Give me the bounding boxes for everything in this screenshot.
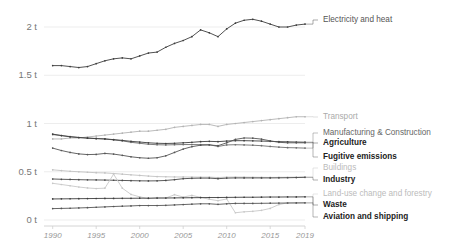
data-point (243, 196, 245, 198)
data-point (287, 26, 289, 28)
data-point (78, 171, 80, 173)
data-point (174, 176, 176, 178)
data-point (208, 141, 210, 143)
data-point (208, 124, 210, 126)
data-point (113, 153, 115, 155)
data-point (182, 204, 184, 206)
data-point (243, 144, 245, 146)
legend-label-electricity-and-heat[interactable]: Electricity and heat (323, 15, 393, 24)
legend-label-industry[interactable]: Industry (323, 175, 356, 184)
data-point (69, 136, 71, 138)
data-point (95, 63, 97, 65)
legend-label-agriculture[interactable]: Agriculture (323, 138, 367, 147)
series-line (53, 203, 305, 209)
data-point (287, 117, 289, 119)
data-point (148, 197, 150, 199)
data-point (113, 198, 115, 200)
data-point (156, 144, 158, 146)
data-point (52, 147, 54, 149)
data-point (130, 58, 132, 60)
data-point (243, 177, 245, 179)
data-point (252, 121, 254, 123)
data-point (217, 36, 219, 38)
data-point (191, 177, 193, 179)
data-point (121, 180, 123, 182)
legend-label-manufacturing-construction[interactable]: Manufacturing & Construction (323, 128, 431, 137)
legend-label-waste[interactable]: Waste (323, 200, 347, 209)
data-point (69, 179, 71, 181)
data-point (278, 202, 280, 204)
data-point (156, 129, 158, 131)
data-point (278, 196, 280, 198)
data-point (269, 119, 271, 121)
data-point (269, 177, 271, 179)
data-point (269, 23, 271, 25)
data-point (208, 203, 210, 205)
data-point (174, 179, 176, 181)
data-point (252, 210, 254, 212)
data-point (182, 176, 184, 178)
data-point (269, 140, 271, 142)
data-point (121, 205, 123, 207)
data-point (208, 144, 210, 146)
data-point (95, 172, 97, 174)
data-point (235, 144, 237, 146)
data-point (87, 154, 89, 156)
data-point (156, 176, 158, 178)
data-point (269, 208, 271, 210)
series-line (53, 117, 305, 139)
data-point (113, 133, 115, 135)
data-point (104, 198, 106, 200)
y-axis-tick-label: 2 t (26, 21, 37, 32)
data-point (174, 144, 176, 146)
data-point (130, 174, 132, 176)
data-point (269, 196, 271, 198)
data-point (243, 19, 245, 21)
data-point (269, 146, 271, 148)
data-point (78, 207, 80, 209)
data-point (104, 134, 106, 136)
legend-label-land-use-change-and-forestry[interactable]: Land-use change and forestry (323, 189, 433, 198)
legend-label-transport[interactable]: Transport (323, 112, 358, 121)
data-point (226, 198, 228, 200)
data-point (104, 60, 106, 62)
data-point (121, 197, 123, 199)
data-point (139, 197, 141, 199)
data-point (208, 197, 210, 199)
data-point (226, 177, 228, 179)
y-axis-tick-label: 1.5 t (19, 69, 38, 80)
legend-label-buildings[interactable]: Buildings (323, 163, 356, 172)
data-point (165, 204, 167, 206)
data-point (191, 203, 193, 205)
data-point (156, 205, 158, 207)
data-point (104, 187, 106, 189)
data-point (200, 29, 202, 31)
data-point (121, 154, 123, 156)
data-point (200, 144, 202, 146)
data-point (61, 184, 63, 186)
data-point (269, 202, 271, 204)
data-point (226, 140, 228, 142)
series-fugitive-emissions (52, 137, 306, 159)
legend-label-aviation-and-shipping[interactable]: Aviation and shipping (323, 212, 408, 221)
x-axis-tick-labels: 1990199520002005201020152019 (44, 231, 315, 240)
chart-container: 0 t0.5 t1 t1.5 t2 t 19901995200020052010… (0, 0, 455, 250)
data-point (261, 196, 263, 198)
line-chart: 0 t0.5 t1 t1.5 t2 t 19901995200020052010… (0, 0, 455, 250)
y-axis-tick-label: 0.5 t (19, 166, 38, 177)
data-point (69, 66, 71, 68)
data-point (278, 118, 280, 120)
data-point (104, 206, 106, 208)
data-point (174, 142, 176, 144)
legend-label-fugitive-emissions[interactable]: Fugitive emissions (323, 152, 397, 161)
series-electricity-and-heat (52, 18, 306, 68)
data-point (104, 138, 106, 140)
data-point (261, 145, 263, 147)
data-point (235, 22, 237, 24)
data-point (191, 36, 193, 38)
data-point (104, 153, 106, 155)
legend-leader-line (305, 197, 318, 205)
data-point (182, 197, 184, 199)
data-point (95, 154, 97, 156)
data-point (235, 139, 237, 141)
